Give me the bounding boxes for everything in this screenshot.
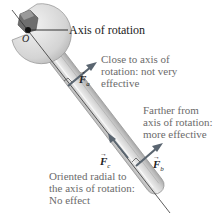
force-a-label: →Fa bbox=[79, 73, 90, 88]
close-to-axis-text: Close to axis of rotation: not very effe… bbox=[101, 53, 177, 89]
origin-label: O bbox=[22, 33, 29, 45]
wrench-torque-diagram: O Axis of rotation →Fa Close to axis of … bbox=[0, 0, 217, 218]
farther-from-axis-text: Farther from axis of rotation: more effe… bbox=[143, 104, 213, 140]
force-b-label: →Fb bbox=[153, 158, 164, 173]
wrench-head bbox=[12, 4, 71, 64]
force-c-label: →Fc bbox=[100, 155, 110, 170]
axis-of-rotation-label: Axis of rotation bbox=[69, 24, 145, 36]
radial-orientation-text: Oriented radial to the axis of rotation:… bbox=[49, 170, 135, 206]
